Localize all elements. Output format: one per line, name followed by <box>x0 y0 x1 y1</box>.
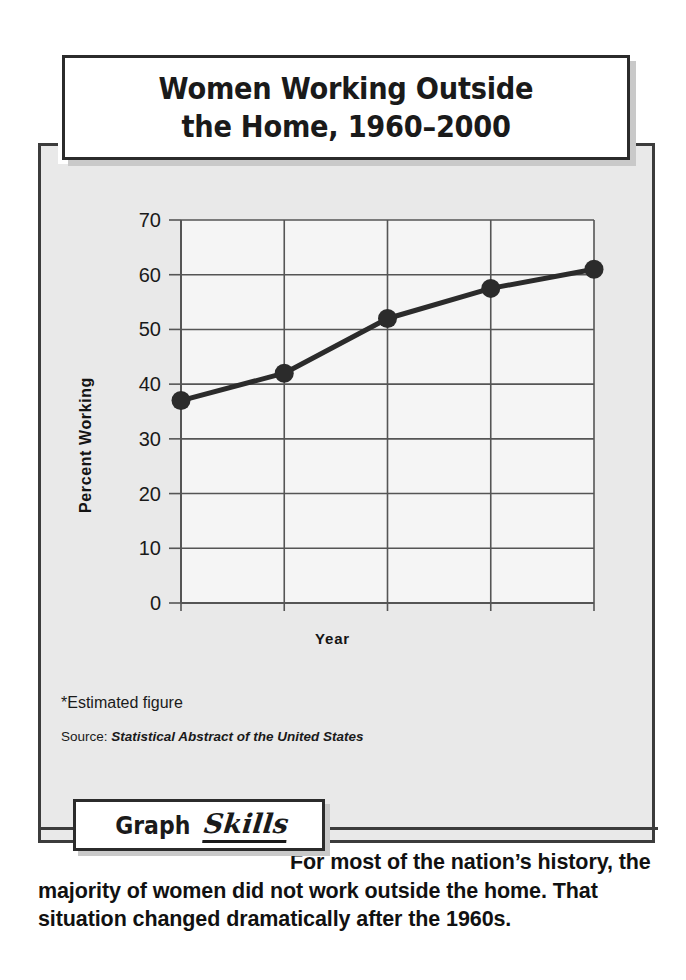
svg-text:20: 20 <box>139 483 161 505</box>
chart-title-card: Women Working Outside the Home, 1960–200… <box>62 55 630 160</box>
svg-text:0: 0 <box>150 592 161 614</box>
svg-text:40: 40 <box>139 373 161 395</box>
chart-container: Percent Working 010203040506070 19601970… <box>41 146 658 846</box>
svg-text:1970: 1970 <box>263 622 305 626</box>
y-axis-ticks <box>169 220 181 603</box>
source-label: Source: <box>61 729 108 744</box>
svg-text:60: 60 <box>139 264 161 286</box>
badge-word-skills: Skills <box>202 808 290 843</box>
svg-text:1960: 1960 <box>160 622 202 626</box>
chart-title-line-2: the Home, 1960–2000 <box>181 108 510 146</box>
line-chart-plot: 010203040506070 19601970198019902000* <box>41 146 658 626</box>
y-axis-tick-labels: 010203040506070 <box>139 209 161 614</box>
graph-skills-page: Percent Working 010203040506070 19601970… <box>0 0 686 980</box>
estimated-figure-footnote: *Estimated figure <box>61 694 183 712</box>
graph-panel: Percent Working 010203040506070 19601970… <box>38 143 655 843</box>
svg-text:70: 70 <box>139 209 161 231</box>
source-title: Statistical Abstract of the United State… <box>111 729 363 744</box>
x-axis-title: Year <box>41 630 624 647</box>
svg-text:10: 10 <box>139 537 161 559</box>
x-axis-tick-labels: 19601970198019902000* <box>160 622 620 626</box>
svg-text:50: 50 <box>139 318 161 340</box>
badge-word-graph: Graph <box>115 811 190 840</box>
caption-text: For most of the nation’s history, the ma… <box>38 850 651 931</box>
chart-title-line-1: Women Working Outside <box>159 70 534 108</box>
svg-text:30: 30 <box>139 428 161 450</box>
graph-skills-badge: Graph Skills <box>73 799 325 851</box>
svg-text:1990: 1990 <box>470 622 512 626</box>
caption-paragraph: For most of the nation’s history, the ma… <box>38 848 658 934</box>
svg-text:1980: 1980 <box>366 622 408 626</box>
svg-text:2000*: 2000* <box>569 622 619 626</box>
source-line: Source: Statistical Abstract of the Unit… <box>61 729 364 744</box>
